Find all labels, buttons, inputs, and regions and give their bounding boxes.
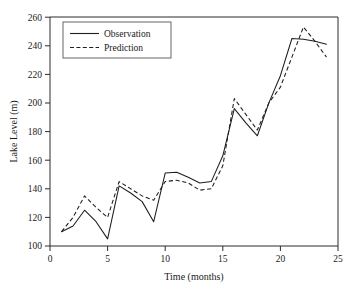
line-chart: 100 120 140 160 180 200 220 240 260 0 5 … [0,0,355,291]
x-tick-label: 0 [48,254,53,264]
y-axis-title: Lake Level (m) [8,100,20,162]
y-tick-label: 120 [28,213,43,223]
x-axis-title: Time (months) [164,271,223,283]
x-axis-ticks: 0 5 10 15 20 25 [48,246,343,264]
y-tick-label: 220 [28,70,43,80]
y-axis-ticks: 100 120 140 160 180 200 220 240 260 [28,13,50,252]
series-line-observation [62,38,327,238]
y-tick-label: 260 [28,13,43,23]
y-tick-label: 180 [28,127,43,137]
chart-figure: 100 120 140 160 180 200 220 240 260 0 5 … [0,0,355,291]
x-tick-label: 5 [105,254,110,264]
legend-label-observation: Observation [104,29,151,39]
x-tick-label: 25 [333,254,343,264]
x-tick-label: 10 [160,254,170,264]
x-tick-label: 20 [276,254,286,264]
y-tick-label: 140 [28,184,43,194]
x-tick-label: 15 [218,254,228,264]
y-tick-label: 240 [28,41,43,51]
y-tick-label: 200 [28,98,43,108]
chart-legend: Observation Prediction [63,22,171,58]
y-tick-label: 100 [28,241,43,251]
y-tick-label: 160 [28,156,43,166]
legend-label-prediction: Prediction [104,43,143,53]
